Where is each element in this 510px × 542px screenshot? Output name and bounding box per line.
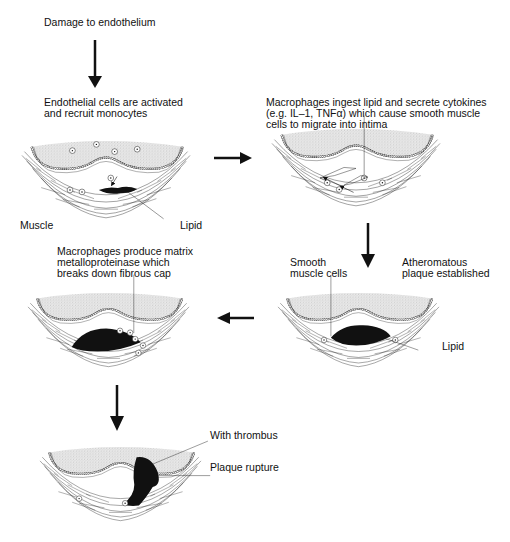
arrow-head-down-1 bbox=[88, 76, 102, 88]
lipid-label-1: Lipid bbox=[180, 220, 202, 231]
smooth-muscle-label-line2: muscle cells bbox=[290, 268, 347, 279]
lipid-label-2: Lipid bbox=[442, 341, 464, 352]
vessel-panel-5 bbox=[40, 441, 210, 521]
step-ingest-line3: cells to migrate into intima bbox=[266, 119, 387, 130]
step-mmp-line3: breaks down fibrous cap bbox=[57, 268, 171, 279]
arrow-head-left bbox=[217, 312, 230, 324]
thrombus-label: With thrombus bbox=[210, 430, 278, 441]
step-damage-label: Damage to endothelium bbox=[44, 17, 156, 28]
muscle-label: Muscle bbox=[20, 220, 53, 231]
arrow-head-right bbox=[240, 152, 252, 164]
arrow-head-down-2 bbox=[361, 254, 375, 268]
plaque-rupture-label: Plaque rupture bbox=[210, 462, 279, 473]
vessel-panel-3 bbox=[278, 276, 439, 367]
step-activated-line2: and recruit monocytes bbox=[44, 108, 147, 119]
vessel-panel-4 bbox=[28, 275, 189, 367]
step-athero-line2: plaque established bbox=[402, 268, 490, 279]
vessel-panel-1 bbox=[22, 141, 190, 219]
arrow-head-down-3 bbox=[110, 416, 124, 431]
